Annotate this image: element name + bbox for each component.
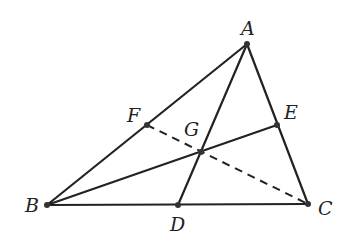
- solid-segments: [47, 44, 308, 205]
- label-f: F: [126, 104, 141, 126]
- segment-be: [47, 125, 277, 205]
- point-b: [44, 202, 50, 208]
- label-g: G: [184, 118, 199, 140]
- points: [44, 41, 311, 208]
- label-c: C: [318, 197, 333, 219]
- point-c: [305, 201, 311, 207]
- label-e: E: [283, 101, 298, 123]
- dashed-segments: [147, 125, 308, 204]
- label-a: A: [239, 17, 255, 39]
- label-d: D: [169, 213, 185, 235]
- point-a: [244, 41, 250, 47]
- point-d: [175, 202, 181, 208]
- point-f: [144, 122, 150, 128]
- triangle-diagram: A B C D E F G: [0, 0, 360, 245]
- label-b: B: [24, 194, 39, 216]
- point-e: [274, 122, 280, 128]
- point-g: [198, 149, 204, 155]
- dashed-segment-fc: [147, 125, 308, 204]
